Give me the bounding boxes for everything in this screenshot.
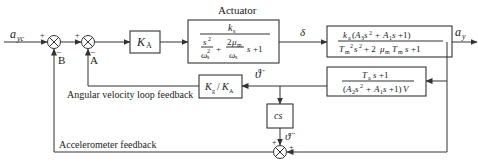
delta-label: δ [300, 26, 306, 38]
svg-text:2: 2 [207, 48, 210, 54]
accelerometer-feedback-label: Accelerometer feedback [59, 139, 156, 150]
svg-text:A: A [229, 88, 234, 94]
plant-block: k a ( A 3 s 2 + A 1 s +1) T m 2 s 2 + 2 … [327, 26, 452, 57]
svg-text:K: K [136, 35, 146, 49]
svg-text:+1: +1 [253, 44, 263, 54]
control-block-diagram: a yc + − B + − A K A Actuator k s s 2 [0, 0, 478, 165]
svg-text:+: + [289, 143, 294, 152]
junction-label-a: A [90, 54, 98, 66]
svg-text:s: s [392, 30, 396, 40]
actuator-title: Actuator [218, 4, 257, 16]
svg-text:2: 2 [350, 43, 353, 49]
svg-text:2: 2 [227, 37, 232, 47]
svg-text:/: / [217, 81, 220, 92]
actuator-block: k s s 2 ω s 2 + 2 μ m ω s s +1 [188, 20, 279, 63]
svg-text:m: m [398, 49, 403, 55]
svg-text:+1: +1 [379, 70, 389, 80]
svg-text:+: + [366, 84, 371, 94]
svg-text:s: s [355, 84, 359, 94]
summing-junction-b: + − B [40, 31, 65, 66]
angular-velocity-feedback-line [88, 49, 199, 86]
accelerometer-feedback-line [54, 49, 274, 152]
output-branch-line [287, 42, 447, 152]
svg-text:s: s [405, 44, 409, 54]
svg-text:+1): +1) [389, 84, 402, 94]
svg-text:+: + [216, 44, 221, 54]
svg-text:A: A [345, 84, 352, 94]
svg-text:+: + [40, 31, 45, 40]
svg-text:2: 2 [208, 36, 211, 42]
svg-text:g: g [212, 88, 215, 94]
svg-text:+: + [75, 31, 80, 40]
angular-velocity-loop-label: Angular velocity loop feedback [67, 89, 193, 100]
svg-text:2: 2 [369, 30, 372, 36]
svg-text:2: 2 [360, 83, 363, 89]
theta-dot-label: ϑ̇ [255, 67, 265, 81]
differentiator-block: cs [267, 104, 293, 128]
gain-block-ka: K A [130, 31, 160, 53]
svg-text:cs: cs [274, 110, 282, 121]
svg-text:s: s [354, 44, 358, 54]
rate-gain-block: K g / K A [199, 75, 242, 98]
svg-text:+1): +1) [398, 30, 411, 40]
summing-junction-a: + − A [75, 31, 98, 66]
svg-text:a: a [10, 27, 16, 41]
output-signal-label: a y [455, 25, 466, 41]
rate-feedback-block: T a s +1 ( A 2 s 2 + A 1 s +1) V [327, 67, 426, 96]
svg-text:+: + [272, 138, 277, 147]
svg-text:A: A [146, 41, 152, 50]
svg-text:a: a [368, 75, 371, 81]
svg-text:2: 2 [359, 43, 362, 49]
svg-text:A: A [382, 30, 389, 40]
svg-text:s: s [383, 84, 387, 94]
theta-ddot-label: ϑ̈ [285, 130, 295, 142]
svg-text:a: a [455, 25, 461, 39]
input-signal-label: a yc [10, 27, 25, 43]
svg-text:m: m [385, 49, 390, 55]
svg-text:+: + [375, 30, 380, 40]
svg-text:a: a [348, 35, 351, 41]
svg-text:s: s [364, 30, 368, 40]
svg-text:m: m [345, 49, 350, 55]
svg-text:+ 2: + 2 [364, 44, 376, 54]
summing-junction-accel: + + [272, 138, 294, 159]
svg-text:y: y [461, 32, 466, 41]
svg-text:s: s [247, 44, 251, 54]
svg-text:A: A [354, 30, 361, 40]
svg-text:s: s [203, 37, 207, 47]
svg-text:A: A [373, 84, 380, 94]
svg-text:s: s [373, 70, 377, 80]
junction-label-b: B [58, 54, 65, 66]
svg-text:+1: +1 [411, 44, 421, 54]
